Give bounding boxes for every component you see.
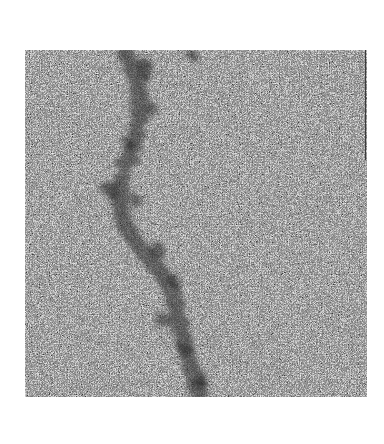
micrograph-noise (25, 50, 367, 397)
micrograph-image (25, 50, 367, 397)
image-right-edge-line (365, 50, 366, 160)
image-canvas (0, 0, 384, 444)
